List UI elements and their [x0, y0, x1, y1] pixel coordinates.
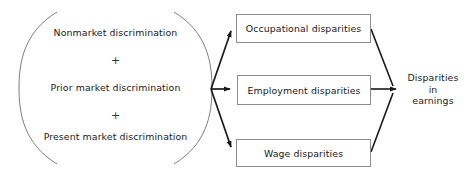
box-occupational-disparities: Occupational disparities — [236, 14, 371, 43]
source-line-nonmarket-discrimination: Nonmarket discrimination — [19, 28, 212, 37]
arrow-to-occupational-disparities — [211, 31, 231, 89]
source-plus-sign-2: + — [19, 110, 212, 121]
outcome-label-disparities-in-earnings: Disparities in earnings — [400, 72, 466, 107]
line-occupational-to-outcome — [371, 29, 393, 86]
box-employment-disparities: Employment disparities — [237, 75, 371, 105]
source-line-present-market-discrimination: Present market discrimination — [19, 132, 212, 141]
line-wage-to-outcome — [371, 93, 393, 152]
arrow-to-wage-disparities — [211, 89, 231, 147]
source-line-prior-market-discrimination: Prior market discrimination — [19, 83, 212, 92]
outcome-line-2: in — [400, 84, 466, 96]
outcome-line-3: earnings — [400, 95, 466, 107]
source-plus-sign-1: + — [19, 55, 212, 66]
outcome-line-1: Disparities — [400, 72, 466, 84]
discrimination-flow-diagram: Nonmarket discrimination + Prior market … — [0, 0, 469, 176]
box-wage-disparities: Wage disparities — [236, 139, 371, 167]
